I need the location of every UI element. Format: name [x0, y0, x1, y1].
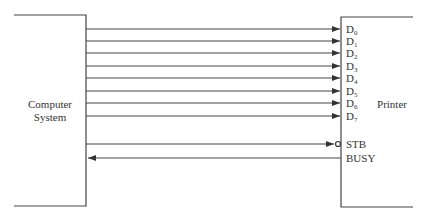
computer-system-block: Computer System: [14, 15, 86, 206]
data-line-label: D4: [346, 72, 358, 86]
data-line-d5: D5: [86, 85, 358, 99]
data-line-label: D2: [346, 47, 358, 61]
data-line-d6: D6: [86, 97, 358, 111]
busy-label: BUSY: [346, 152, 375, 164]
stb-label: STB: [346, 138, 366, 150]
data-line-d1: D1: [86, 35, 358, 49]
printer-label: Printer: [377, 98, 407, 110]
busy-line: BUSY: [88, 152, 375, 164]
data-line-label: D6: [346, 97, 358, 111]
computer-label-line1: Computer: [28, 98, 72, 110]
strobe-line: STB: [86, 138, 366, 150]
data-line-label: D7: [346, 110, 358, 124]
data-bus: D0D1D2D3D4D5D6D7: [86, 23, 358, 124]
data-line-d2: D2: [86, 47, 358, 61]
data-line-d0: D0: [86, 23, 358, 37]
computer-label-line2: System: [34, 111, 67, 123]
parallel-interface-diagram: Computer System Printer D0D1D2D3D4D5D6D7…: [0, 0, 426, 219]
data-line-d3: D3: [86, 60, 358, 74]
data-line-d7: D7: [86, 110, 358, 124]
active-low-bubble-icon: [336, 142, 341, 147]
data-line-d4: D4: [86, 72, 358, 86]
